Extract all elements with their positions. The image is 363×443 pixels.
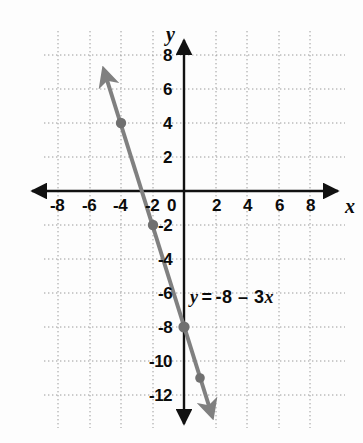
y-tick-label--4: -4 bbox=[158, 251, 172, 268]
x-tick-label--6: -6 bbox=[82, 197, 96, 214]
x-tick-label-4: 4 bbox=[243, 197, 252, 214]
y-tick-label--2: -2 bbox=[158, 217, 172, 234]
y-tick-label-4: 4 bbox=[163, 115, 172, 132]
y-tick-label--8: -8 bbox=[158, 319, 172, 336]
x-tick-label-8: 8 bbox=[306, 197, 315, 214]
data-point bbox=[195, 373, 205, 383]
x-tick-label-2: 2 bbox=[212, 197, 221, 214]
y-tick-label-6: 6 bbox=[163, 81, 172, 98]
y-tick-label-2: 2 bbox=[163, 149, 172, 166]
y-tick-label-8: 8 bbox=[163, 47, 172, 64]
equation-annotation: y=-8 – 3x bbox=[190, 288, 274, 306]
x-tick-label--4: -4 bbox=[113, 197, 127, 214]
y-axis-label: y bbox=[166, 24, 175, 44]
coordinate-plane-graph: -8 -6 -4 -2 0 2 4 6 8 8 6 4 2 -2 -4 -6 -… bbox=[0, 0, 363, 443]
y-tick-label--6: -6 bbox=[158, 285, 172, 302]
data-point bbox=[178, 321, 189, 332]
x-tick-label-0: 0 bbox=[167, 197, 176, 214]
x-tick-label-6: 6 bbox=[275, 197, 284, 214]
plot-area bbox=[0, 0, 363, 443]
y-tick-label--12: -12 bbox=[149, 387, 172, 404]
equation-rhs: -8 – 3 bbox=[216, 287, 265, 307]
data-point bbox=[116, 118, 126, 128]
y-tick-label--10: -10 bbox=[149, 353, 172, 370]
equation-equals: = bbox=[202, 287, 213, 307]
x-axis-label: x bbox=[345, 196, 355, 216]
x-tick-label--8: -8 bbox=[50, 197, 64, 214]
equation-rhs-variable: x bbox=[265, 287, 275, 307]
equation-lhs: y bbox=[190, 287, 199, 307]
data-point bbox=[148, 220, 158, 230]
x-tick-label--2: -2 bbox=[145, 197, 159, 214]
grid-horizontal-lines bbox=[44, 55, 345, 395]
